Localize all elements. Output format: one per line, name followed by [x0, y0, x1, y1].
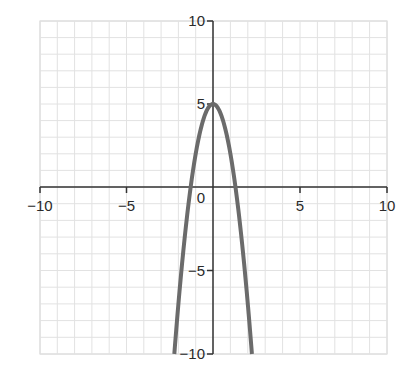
- origin-label: 0: [197, 189, 205, 206]
- x-tick-label: 10: [379, 197, 396, 214]
- y-tick-label: 10: [188, 12, 205, 29]
- x-tick-label: 5: [296, 197, 304, 214]
- y-tick-label: −10: [180, 345, 205, 362]
- y-tick-label: −5: [188, 262, 205, 279]
- x-tick-label: −10: [27, 197, 52, 214]
- x-tick-label: −5: [118, 197, 135, 214]
- y-tick-label: 5: [197, 95, 205, 112]
- function-graph: −10−5510105−5−100: [0, 0, 413, 379]
